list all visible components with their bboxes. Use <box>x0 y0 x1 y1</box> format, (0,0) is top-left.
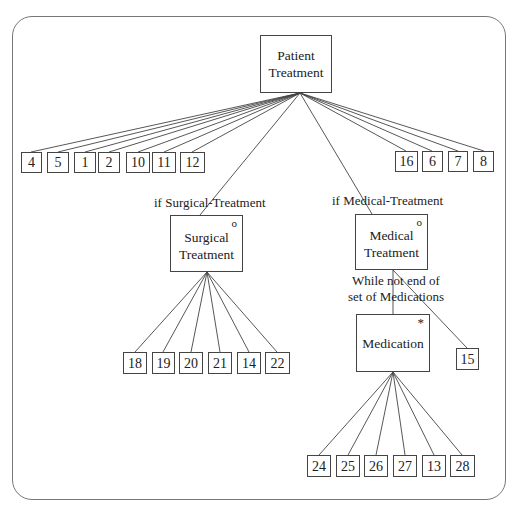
leaf-label: 7 <box>455 153 462 170</box>
leaf-node: 1 <box>74 152 96 173</box>
leaf-label: 20 <box>184 355 198 372</box>
leaf-label: 27 <box>398 458 412 475</box>
leaf-label: 15 <box>461 351 475 368</box>
surgical-condition-label: if Surgical-Treatment <box>154 195 266 210</box>
leaf-node: 10 <box>126 152 150 173</box>
node-label-line2: Treatment <box>179 246 234 263</box>
selection-marker: o <box>232 218 238 229</box>
leaf-label: 4 <box>28 154 35 171</box>
leaf-label: 22 <box>271 355 285 372</box>
leaf-label: 18 <box>128 355 142 372</box>
node-medication: * Medication <box>356 314 430 372</box>
leaf-label: 14 <box>242 355 256 372</box>
selection-marker: o <box>417 217 423 228</box>
leaf-node: 5 <box>47 152 69 173</box>
leaf-node: 28 <box>450 455 475 477</box>
leaf-label: 2 <box>106 154 113 171</box>
leaf-node: 12 <box>180 152 205 173</box>
leaf-label: 25 <box>341 458 355 475</box>
leaf-node: 2 <box>98 152 120 173</box>
leaf-label: 13 <box>427 458 441 475</box>
loop-condition-line2: set of Medications <box>348 289 444 304</box>
leaf-label: 5 <box>55 154 62 171</box>
leaf-label: 24 <box>312 458 326 475</box>
medical-condition-label: if Medical-Treatment <box>332 193 443 208</box>
leaf-label: 6 <box>429 153 436 170</box>
leaf-node: 18 <box>123 352 147 374</box>
leaf-label: 11 <box>157 154 170 171</box>
leaf-node: 21 <box>208 352 232 374</box>
node-label-line2: Treatment <box>269 64 324 81</box>
leaf-node: 27 <box>393 455 417 477</box>
leaf-label: 28 <box>456 458 470 475</box>
leaf-label: 26 <box>369 458 383 475</box>
node-label-line2: Treatment <box>364 244 419 261</box>
node-label-line1: Patient <box>277 47 315 64</box>
leaf-node: 26 <box>364 455 388 477</box>
leaf-label: 21 <box>213 355 227 372</box>
loop-condition-line1: While not end of <box>352 273 440 288</box>
leaf-node: 22 <box>265 352 290 374</box>
node-label-line1: Surgical <box>184 229 229 246</box>
leaf-node: 14 <box>237 352 261 374</box>
leaf-label: 10 <box>131 154 145 171</box>
leaf-label: 8 <box>480 153 487 170</box>
node-medical-treatment: o Medical Treatment <box>355 214 428 270</box>
node-surgical-treatment: o Surgical Treatment <box>170 215 243 272</box>
leaf-node: 8 <box>473 151 494 172</box>
leaf-node: 15 <box>456 348 479 370</box>
leaf-node: 11 <box>152 152 176 173</box>
leaf-node: 19 <box>152 352 175 374</box>
leaf-node: 16 <box>395 151 418 172</box>
leaf-label: 12 <box>186 154 200 171</box>
leaf-node: 13 <box>422 455 446 477</box>
leaf-node: 24 <box>307 455 331 477</box>
leaf-node: 6 <box>422 151 443 172</box>
leaf-node: 4 <box>21 152 42 173</box>
node-label: Medication <box>362 335 423 352</box>
leaf-node: 20 <box>179 352 203 374</box>
leaf-label: 1 <box>82 154 89 171</box>
leaf-node: 25 <box>336 455 360 477</box>
leaf-label: 19 <box>157 355 171 372</box>
node-patient-treatment: Patient Treatment <box>260 35 332 93</box>
iteration-marker: * <box>418 317 425 328</box>
node-label-line1: Medical <box>369 227 413 244</box>
leaf-label: 16 <box>400 153 414 170</box>
leaf-node: 7 <box>448 151 468 172</box>
